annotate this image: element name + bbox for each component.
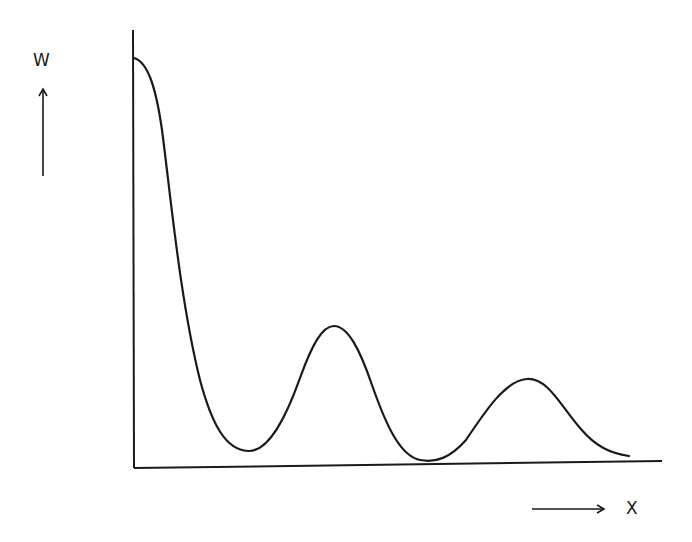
x-axis-line (134, 461, 662, 468)
plot-canvas (0, 0, 692, 542)
x-axis-label: X (626, 498, 638, 518)
y-axis-label: W (33, 50, 50, 70)
y-axis-line (133, 30, 134, 468)
w-curve (134, 58, 629, 461)
